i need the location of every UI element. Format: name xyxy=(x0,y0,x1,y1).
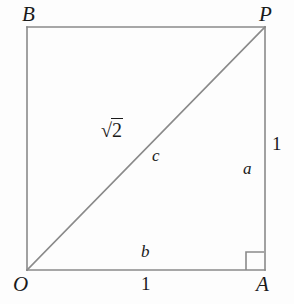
vertex-label-A: A xyxy=(256,274,269,295)
geometry-diagram: B P O A √2 c 1 a b 1 xyxy=(0,0,294,304)
vertical-side-variable-a: a xyxy=(243,160,252,177)
horizontal-side-length: 1 xyxy=(141,274,151,293)
hypotenuse-length-sqrt2: √2 xyxy=(101,118,123,140)
segment-diagonal-OP xyxy=(27,27,265,270)
radicand-value: 2 xyxy=(111,118,123,140)
horizontal-side-variable-b: b xyxy=(141,243,150,260)
hypotenuse-variable-c: c xyxy=(152,147,160,164)
vertex-label-O: O xyxy=(13,274,28,295)
vertical-side-length: 1 xyxy=(272,134,282,153)
right-angle-marker-icon xyxy=(246,252,264,270)
vertex-label-P: P xyxy=(259,4,272,25)
vertex-label-B: B xyxy=(22,4,35,25)
